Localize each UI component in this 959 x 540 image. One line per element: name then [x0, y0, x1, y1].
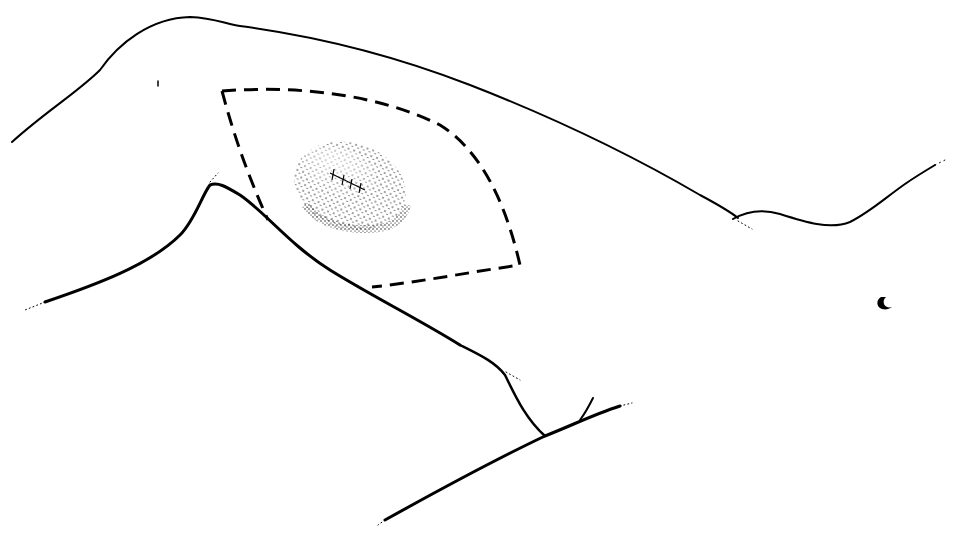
flank-outline	[733, 165, 935, 225]
flank-dotted-end	[935, 160, 945, 165]
fold-dotted-end	[738, 221, 752, 229]
breast-fold-dotted-start	[378, 520, 385, 525]
axilla-fold-dot	[210, 173, 218, 182]
lower-arm-dotted-end	[25, 302, 45, 310]
breast-fold-outline	[385, 406, 620, 520]
chest-outline	[460, 345, 545, 436]
nipple-mark	[877, 297, 892, 309]
excision-outline-left	[222, 91, 268, 220]
breast-fold-dotted-end	[620, 403, 632, 406]
surgical-illustration	[0, 0, 959, 540]
